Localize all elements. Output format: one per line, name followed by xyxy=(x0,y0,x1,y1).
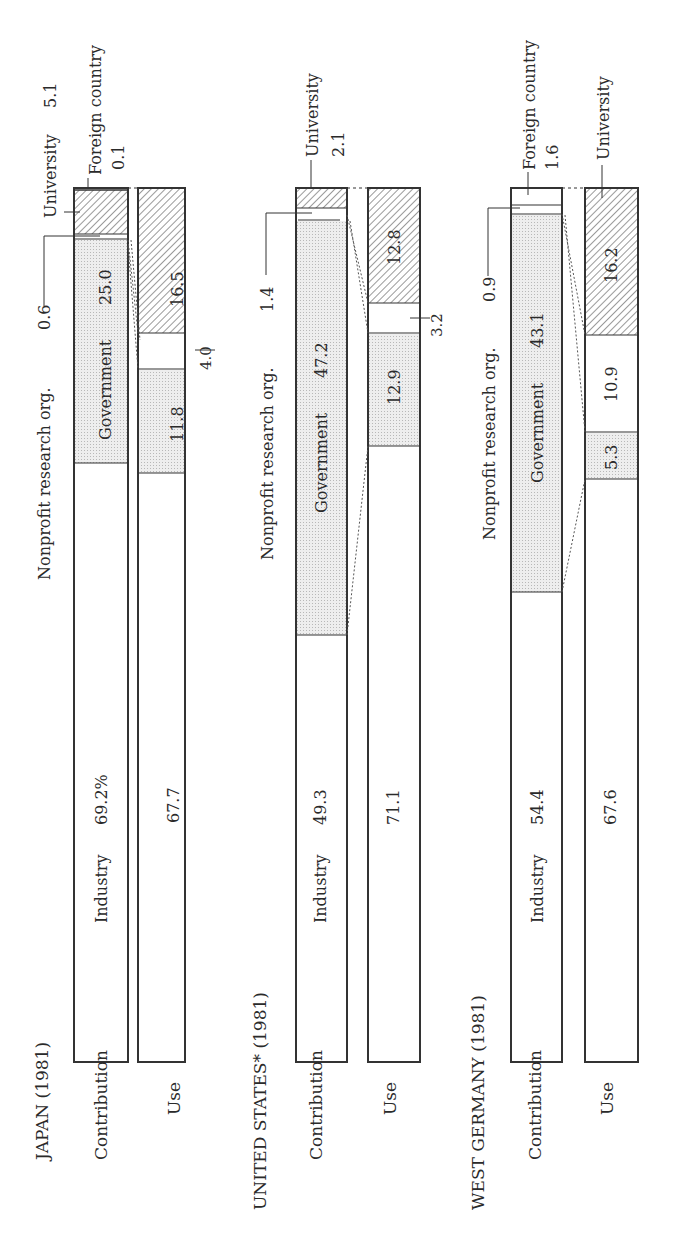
japan-c-foreign-label: Foreign country xyxy=(86,45,105,175)
japan-c-nonprofit-value: 0.6 xyxy=(35,305,54,330)
wg-group: WEST GERMANY (1981) Contribution Use Ind… xyxy=(468,40,638,1210)
japan-u-university-segment xyxy=(139,189,184,333)
japan-c-foreign-value: 0.1 xyxy=(109,145,128,170)
us-c-government-label: Government xyxy=(312,412,331,513)
us-c-government-value: 47.2 xyxy=(312,342,331,378)
wg-c-foreign-label: Foreign country xyxy=(520,40,539,170)
us-c-industry-label: Industry xyxy=(311,855,330,924)
japan-u-government-value: 11.8 xyxy=(168,406,187,442)
wg-u-nonprofit-value: 10.9 xyxy=(602,366,621,402)
japan-c-university-segment xyxy=(75,190,127,234)
us-c-nonprofit-value: 1.4 xyxy=(258,287,277,312)
us-c-university-segment xyxy=(297,189,346,208)
us-u-government-value: 12.9 xyxy=(385,369,404,405)
us-contribution-bar xyxy=(296,188,347,1062)
japan-group: JAPAN (1981) Contribution Use Industry 6… xyxy=(32,45,215,1162)
wg-use-label: Use xyxy=(597,1082,617,1115)
japan-c-government-label: Government xyxy=(96,339,115,440)
us-u-university-value: 12.8 xyxy=(385,229,404,265)
japan-contribution-label: Contribution xyxy=(91,1050,111,1160)
us-c-university-label: University xyxy=(303,73,322,157)
wg-c-foreign-value: 1.6 xyxy=(543,145,562,170)
wg-u-industry-value: 67.6 xyxy=(601,789,620,825)
wg-c-government-value: 43.1 xyxy=(528,312,547,348)
japan-use-label: Use xyxy=(164,1082,184,1115)
japan-u-nonprofit-value: 4.0 xyxy=(197,346,215,370)
rd-funding-chart: JAPAN (1981) Contribution Use Industry 6… xyxy=(0,0,679,1245)
wg-title: WEST GERMANY (1981) xyxy=(468,995,488,1210)
us-group: UNITED STATES* (1981) Contribution Use I… xyxy=(250,73,446,1210)
us-use-label: Use xyxy=(380,1082,400,1115)
wg-c-industry-label: Industry xyxy=(528,855,547,924)
japan-contribution-bar xyxy=(74,188,128,1062)
japan-c-industry-label: Industry xyxy=(92,855,111,924)
us-use-bar xyxy=(368,188,420,1062)
us-title: UNITED STATES* (1981) xyxy=(250,992,270,1210)
japan-c-university-label: University xyxy=(41,134,60,218)
us-c-nonprofit-label: Nonprofit research org. xyxy=(258,367,277,560)
us-u-industry-value: 71.1 xyxy=(384,789,403,825)
us-c-industry-value: 49.3 xyxy=(311,789,330,825)
japan-title: JAPAN (1981) xyxy=(32,1042,52,1162)
us-u-nonprofit-value: 3.2 xyxy=(428,313,446,337)
japan-u-university-value: 16.5 xyxy=(168,271,187,307)
us-c-university-value: 2.1 xyxy=(329,132,348,157)
wg-u-government-value: 5.3 xyxy=(602,445,621,470)
wg-c-nonprofit-label: Nonprofit research org. xyxy=(480,347,499,540)
japan-use-bar xyxy=(138,188,185,1062)
japan-u-industry-value: 67.7 xyxy=(164,787,183,823)
wg-u-university-label: University xyxy=(594,76,613,160)
wg-u-university-value: 16.2 xyxy=(602,247,621,283)
wg-c-nonprofit-value: 0.9 xyxy=(480,277,499,302)
wg-contribution-label: Contribution xyxy=(525,1050,545,1160)
japan-c-university-value: 5.1 xyxy=(41,83,60,108)
wg-c-industry-value: 54.4 xyxy=(528,789,547,825)
japan-c-industry-value: 69.2% xyxy=(92,774,111,825)
wg-c-government-label: Government xyxy=(528,382,547,483)
japan-c-nonprofit-label: Nonprofit research org. xyxy=(35,387,54,580)
japan-c-government-value: 25.0 xyxy=(96,269,115,305)
wg-use-bar xyxy=(585,188,638,1062)
us-contribution-label: Contribution xyxy=(306,1050,326,1160)
